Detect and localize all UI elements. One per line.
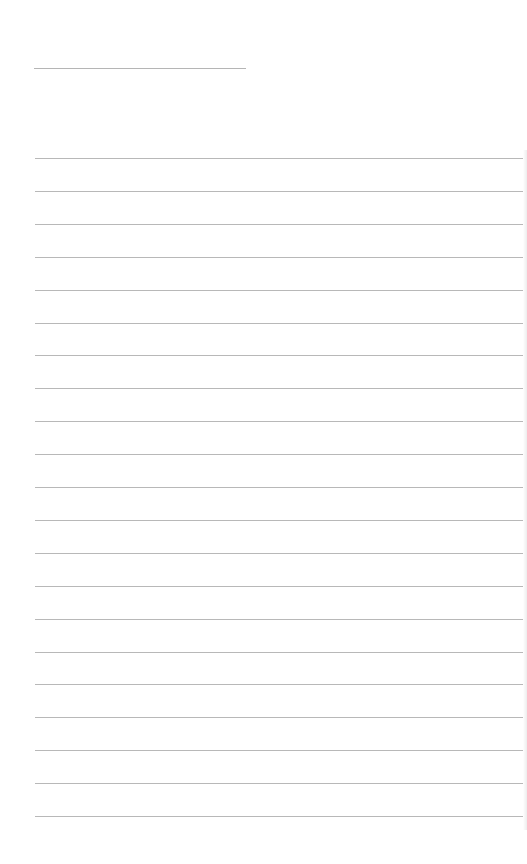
writing-line [35,783,523,784]
writing-line [35,421,523,422]
writing-line [35,816,523,817]
writing-line [35,323,523,324]
writing-line [35,487,523,488]
lined-paper-page [0,0,527,864]
title-line [34,68,246,69]
writing-line [35,619,523,620]
writing-line [35,652,523,653]
writing-line [35,355,523,356]
writing-line [35,553,523,554]
writing-line [35,520,523,521]
writing-line [35,257,523,258]
writing-line [35,684,523,685]
writing-line [35,717,523,718]
writing-line [35,290,523,291]
writing-line [35,586,523,587]
writing-line [35,388,523,389]
writing-line [35,750,523,751]
writing-line [35,224,523,225]
page-edge-shadow [523,150,527,830]
writing-line [35,158,523,159]
writing-line [35,191,523,192]
writing-line [35,454,523,455]
